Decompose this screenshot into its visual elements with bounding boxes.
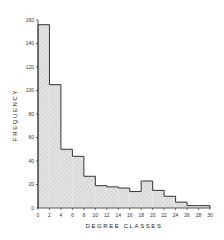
x-tick-label: 14 [115, 212, 121, 218]
y-tick-label: 100 [26, 87, 35, 93]
y-tick-label: 160 [26, 17, 35, 23]
y-tick-label: 80 [28, 111, 34, 117]
histogram-bar [49, 85, 60, 208]
histogram-bar [95, 186, 106, 208]
histogram-bars [38, 25, 210, 208]
x-axis-title: DEGREE CLASSES [85, 223, 162, 229]
histogram-bar [84, 176, 95, 208]
y-tick-label: 140 [26, 40, 35, 46]
x-tick-label: 18 [138, 212, 144, 218]
x-tick-label: 26 [184, 212, 190, 218]
x-tick-label: 20 [150, 212, 156, 218]
x-tick-label: 24 [173, 212, 179, 218]
y-tick-label: 20 [28, 181, 34, 187]
y-axis-title: FREQUENCY [12, 89, 18, 141]
x-tick-label: 2 [48, 212, 51, 218]
histogram-bar [72, 156, 83, 208]
x-tick-label: 22 [161, 212, 167, 218]
y-tick-label: 40 [28, 158, 34, 164]
x-tick-label: 30 [207, 212, 213, 218]
histogram-bar [107, 187, 118, 208]
histogram-bar [164, 196, 175, 208]
x-tick-label: 16 [127, 212, 133, 218]
x-tick-label: 28 [196, 212, 202, 218]
histogram-bar [153, 190, 164, 208]
x-tick-label: 6 [71, 212, 74, 218]
histogram-bar [38, 25, 49, 208]
histogram-bar [61, 149, 72, 208]
histogram-bar [118, 188, 129, 208]
histogram-bar [176, 202, 187, 208]
y-tick-label: 60 [28, 134, 34, 140]
x-tick-label: 8 [82, 212, 85, 218]
y-tick-label: 0 [31, 205, 34, 211]
x-axis-ticks: 024681012141618202224262830 [37, 208, 213, 218]
x-tick-label: 4 [60, 212, 63, 218]
y-axis-ticks: 020406080100120140160 [26, 17, 38, 211]
y-tick-label: 120 [26, 64, 35, 70]
histogram-bar [130, 192, 141, 208]
histogram-bar [141, 181, 152, 208]
x-tick-label: 10 [93, 212, 99, 218]
x-tick-label: 0 [37, 212, 40, 218]
histogram-chart: 020406080100120140160 024681012141618202… [0, 0, 224, 240]
x-tick-label: 12 [104, 212, 110, 218]
